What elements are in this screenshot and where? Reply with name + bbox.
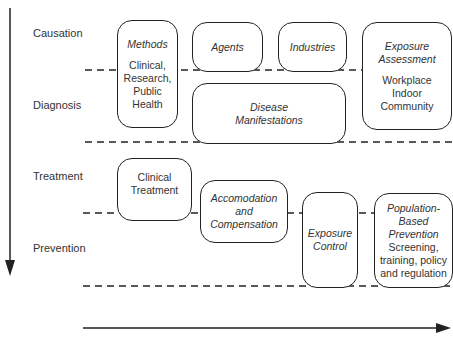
box-text: Indoor [392, 87, 422, 100]
box-text: Clinical [138, 171, 172, 184]
box-text: and regulation [380, 267, 447, 280]
box-title: Agents [211, 41, 244, 54]
box-industries: Industries [278, 22, 347, 72]
box-methods: Methods Clinical, Research, Public Healt… [117, 20, 178, 128]
box-text: Workplace [382, 74, 431, 87]
box-title: Prevention [388, 228, 438, 241]
box-text: Public [133, 85, 162, 98]
box-title: Population- [387, 202, 440, 215]
box-text: Clinical, [129, 59, 166, 72]
box-accomodation-compensation: Accomodation and Compensation [200, 180, 288, 243]
stage-label-prevention: Prevention [33, 242, 86, 254]
box-text: Community [380, 100, 433, 113]
box-title: Compensation [210, 218, 278, 231]
down-arrowhead-icon [5, 260, 15, 276]
box-title: Disease [250, 101, 288, 114]
box-title: Manifestations [235, 114, 303, 127]
stage-label-treatment: Treatment [33, 170, 83, 182]
box-title: Methods [127, 38, 167, 51]
box-text: Treatment [131, 184, 178, 197]
box-title: Accomodation [211, 192, 278, 205]
box-population-based-prevention: Population- Based Prevention Screening, … [374, 193, 453, 288]
box-text: training, policy [380, 254, 447, 267]
box-text: Screening, [388, 241, 438, 254]
box-disease-manifestations: Disease Manifestations [192, 83, 346, 144]
box-title: Control [313, 240, 347, 253]
box-exposure-control: Exposure Control [302, 192, 358, 288]
box-exposure-assessment: Exposure Assessment Workplace Indoor Com… [362, 22, 452, 130]
stage-label-causation: Causation [33, 27, 83, 39]
box-agents: Agents [192, 22, 263, 72]
box-text: Research, [124, 72, 172, 85]
right-arrowhead-icon [436, 323, 451, 333]
box-clinical-treatment: Clinical Treatment [117, 158, 192, 221]
box-text: Health [132, 98, 162, 111]
box-title: Exposure [308, 227, 352, 240]
stage-label-diagnosis: Diagnosis [33, 99, 81, 111]
box-title: Based [399, 215, 429, 228]
box-title: Exposure [385, 40, 429, 53]
box-title: and [235, 205, 253, 218]
box-title: Assessment [378, 53, 435, 66]
box-title: Industries [290, 41, 336, 54]
